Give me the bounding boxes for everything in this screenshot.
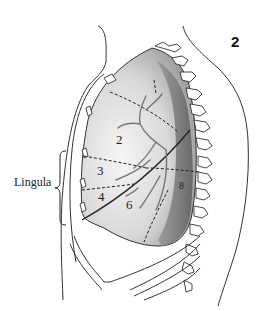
ribs [70, 236, 200, 300]
lung-drawing [0, 0, 266, 311]
segment-label-4: 4 [98, 190, 105, 203]
lingula-brace-icon [54, 150, 68, 226]
lingula-label: Lingula [14, 176, 51, 188]
segment-label-3: 3 [97, 164, 104, 177]
segment-label-8: 8 [179, 181, 184, 191]
segment-label-6: 6 [126, 198, 133, 211]
lung-segment-illustration: 2 Lingula 2 3 4 6 8 [0, 0, 266, 311]
segment-label-2: 2 [116, 133, 123, 146]
figure-number: 2 [231, 34, 239, 49]
